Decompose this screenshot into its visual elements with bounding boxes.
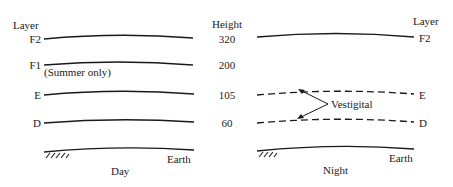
height-header: Height (205, 18, 249, 30)
height-value-e: 105 (205, 89, 249, 101)
f1-summer-note: (Summer only) (44, 66, 111, 78)
day-layer-e-label: E (0, 89, 41, 101)
day-f2-curve (44, 35, 193, 39)
day-earth-curve (44, 148, 194, 152)
vestigital-annotation: Vestigital (331, 98, 373, 110)
day-earth-hatch-icon (46, 153, 69, 158)
day-caption: Day (111, 165, 129, 177)
arrowheads-icon (297, 89, 305, 119)
day-layer-f2-label: F2 (0, 33, 41, 45)
day-layer-d-label: D (0, 117, 41, 129)
day-d-curve (44, 120, 194, 123)
day-layer-f1-label: F1 (0, 59, 41, 71)
day-layer-curves (44, 35, 194, 152)
night-earth-hatch-icon (259, 152, 277, 157)
day-layer-header: Layer (13, 19, 39, 31)
height-value-d: 60 (205, 117, 249, 129)
night-layer-f2-label: F2 (419, 32, 431, 44)
night-layer-curves (257, 34, 414, 152)
night-d-curve (257, 119, 414, 123)
height-value-f2: 320 (205, 33, 249, 45)
day-e-curve (44, 91, 194, 95)
day-f1-curve (44, 62, 193, 65)
night-layer-header: Layer (413, 15, 439, 27)
night-f2-curve (257, 34, 414, 38)
night-earth-curve (257, 146, 414, 151)
night-caption: Night (323, 164, 348, 176)
vestigital-pointer-icon (299, 90, 328, 118)
night-e-curve (257, 91, 414, 95)
day-earth-label: Earth (167, 153, 191, 165)
night-layer-d-label: D (419, 117, 427, 129)
height-value-f1: 200 (205, 59, 249, 71)
night-earth-label: Earth (389, 152, 413, 164)
night-layer-e-label: E (419, 89, 426, 101)
